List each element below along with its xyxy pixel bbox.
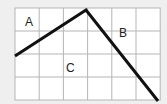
region-label-c: C [66,62,75,74]
region-label-b: B [119,27,127,39]
grid [15,8,160,100]
region-label-a: A [25,16,33,28]
